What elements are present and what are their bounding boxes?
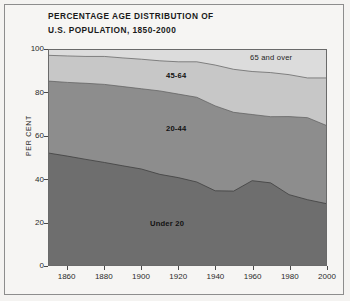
x-tick-mark [253,266,254,270]
x-tick-mark [67,266,68,270]
x-tick-label: 1960 [233,272,273,281]
x-tick-mark [215,266,216,270]
x-tick-mark [327,266,328,270]
x-tick-label: 1860 [47,272,87,281]
x-tick-label: 1980 [270,272,310,281]
x-tick-label: 2000 [307,272,347,281]
x-tick-label: 1920 [158,272,198,281]
x-axis-tick-labels: 1860 1880 1900 1920 1940 1960 1980 2000 [0,0,350,301]
x-tick-label: 1880 [84,272,124,281]
chart-screenshot: PERCENTAGE AGE DISTRIBUTION OF U.S. POPU… [0,0,350,301]
x-tick-mark [290,266,291,270]
x-tick-mark [104,266,105,270]
x-tick-label: 1900 [121,272,161,281]
x-tick-mark [178,266,179,270]
x-tick-mark [141,266,142,270]
x-tick-label: 1940 [195,272,235,281]
